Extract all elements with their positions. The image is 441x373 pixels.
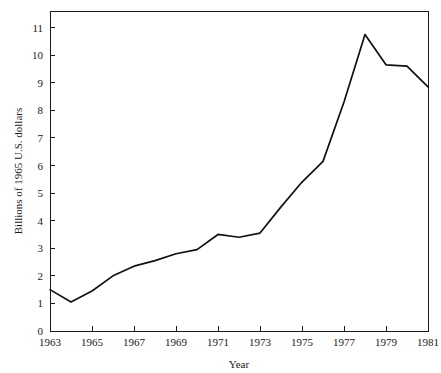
line-chart: 01234567891011 1963196519671969197119731… (0, 0, 441, 373)
y-tick-label-7: 7 (38, 132, 44, 144)
y-tick-label-9: 9 (38, 77, 44, 89)
x-tick-label-1973: 1973 (249, 336, 272, 348)
chart-plot-area: 01234567891011 1963196519671969197119731… (0, 0, 441, 373)
y-tick-label-3: 3 (38, 242, 44, 254)
y-tick-label-11: 11 (32, 22, 43, 34)
x-tick-label-1971: 1971 (207, 336, 229, 348)
y-tick-label-2: 2 (38, 270, 44, 282)
x-tick-label-1975: 1975 (291, 336, 314, 348)
y-tick-label-5: 5 (38, 187, 44, 199)
x-tick-label-1963: 1963 (39, 336, 62, 348)
x-tick-label-1969: 1969 (165, 336, 188, 348)
x-tick-label-1977: 1977 (333, 336, 356, 348)
y-tick-label-6: 6 (38, 160, 44, 172)
y-tick-label-10: 10 (32, 49, 44, 61)
y-axis-title: Billions of 1965 U.S. dollars (12, 108, 24, 235)
x-tick-label-1965: 1965 (81, 336, 104, 348)
x-tick-label-1981: 1981 (417, 336, 439, 348)
y-tick-label-4: 4 (38, 215, 44, 227)
y-tick-label-8: 8 (38, 104, 44, 116)
chart-background (0, 0, 441, 373)
x-tick-label-1967: 1967 (123, 336, 146, 348)
x-tick-label-1979: 1979 (375, 336, 398, 348)
y-tick-label-1: 1 (38, 297, 44, 309)
x-axis-title: Year (229, 358, 250, 370)
